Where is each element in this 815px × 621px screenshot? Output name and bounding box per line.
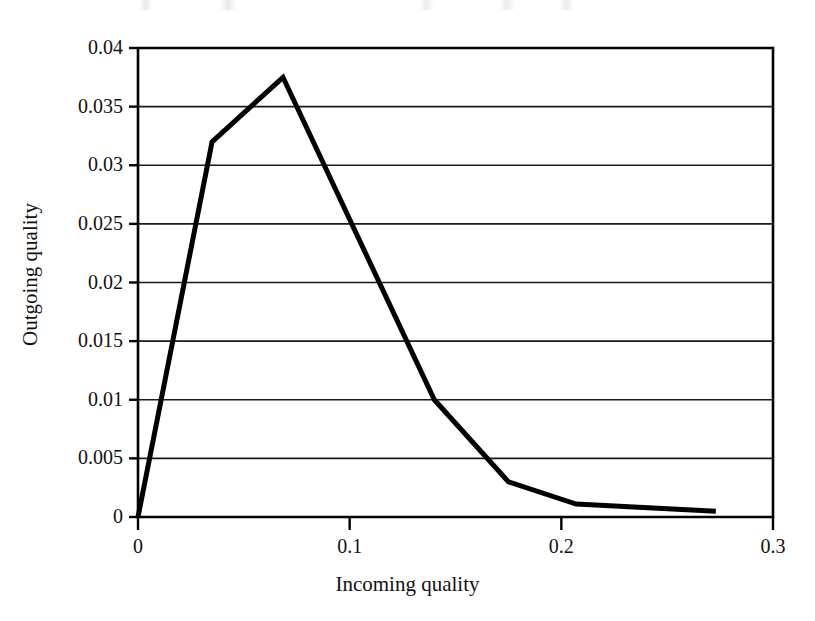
data-series-line bbox=[138, 77, 716, 517]
y-tick-label: 0.04 bbox=[0, 37, 123, 57]
y-axis-title: Outgoing quality bbox=[18, 165, 43, 385]
y-tick-label: 0.01 bbox=[0, 389, 123, 409]
x-tick-label: 0 bbox=[98, 536, 178, 556]
gridlines-group bbox=[138, 107, 773, 459]
plot-canvas bbox=[0, 0, 815, 621]
y-tick-label: 0.035 bbox=[0, 96, 123, 116]
x-axis-title: Incoming quality bbox=[0, 572, 815, 597]
chart-figure: 00.0050.010.0150.020.0250.030.0350.04 00… bbox=[0, 0, 815, 621]
x-tick-label: 0.1 bbox=[310, 536, 390, 556]
y-tick-label: 0.005 bbox=[0, 447, 123, 467]
y-tick-label: 0 bbox=[0, 506, 123, 526]
x-tick-label: 0.2 bbox=[521, 536, 601, 556]
x-tick-label: 0.3 bbox=[733, 536, 813, 556]
